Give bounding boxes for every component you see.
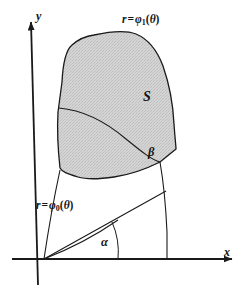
x-axis-label: x <box>224 246 230 258</box>
outer-curve-label: r=φ1(θ) <box>122 14 159 26</box>
angle-beta-label: β <box>148 146 154 159</box>
beta-boundary-curve <box>160 162 167 259</box>
inner-curve-theta: θ <box>64 199 70 211</box>
inner-curve-subscript: 0 <box>56 204 60 213</box>
figure-canvas <box>0 0 247 292</box>
inner-curve-label: r=φ0(θ) <box>36 200 73 212</box>
y-axis-line <box>31 22 38 285</box>
region-label-s: S <box>143 90 151 104</box>
angle-arc-alpha <box>112 222 118 259</box>
outer-curve-equals: = <box>126 13 135 25</box>
outer-curve-theta: θ <box>150 13 156 25</box>
outer-curve-subscript: 1 <box>142 18 146 27</box>
polar-region-figure: r=φ1(θ) r=φ0(θ) S β α x y <box>0 0 247 292</box>
ray-alpha <box>44 170 60 259</box>
inner-curve-phi: φ <box>49 199 56 211</box>
y-axis-label: y <box>36 10 41 22</box>
region-s-shape <box>58 31 176 178</box>
outer-curve-phi: φ <box>135 13 142 25</box>
angle-alpha-label: α <box>101 236 108 249</box>
inner-curve-equals: = <box>40 199 49 211</box>
